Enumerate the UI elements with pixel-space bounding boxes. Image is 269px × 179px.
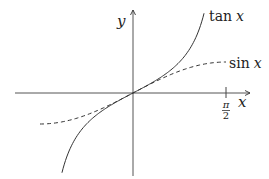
x-axis-label: x <box>238 93 247 111</box>
function-plot: y x tanx sinx π 2 <box>0 0 269 179</box>
y-axis-label: y <box>116 12 126 30</box>
tan-label: tanx <box>209 8 244 24</box>
tan-label-var: x <box>236 8 244 24</box>
tick-denominator: 2 <box>223 110 229 121</box>
tick-label-pi-over-2: π 2 <box>222 99 230 121</box>
sin-label-var: x <box>254 55 262 71</box>
sin-label: sinx <box>229 55 262 71</box>
sin-label-fn: sin <box>229 55 250 71</box>
tan-label-fn: tan <box>209 8 232 24</box>
tick-numerator: π <box>222 99 230 110</box>
